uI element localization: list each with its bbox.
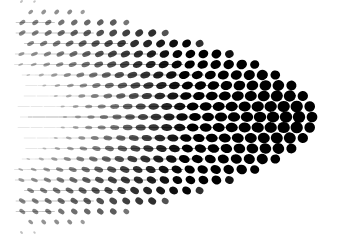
halftone-dot-pattern [0,0,353,244]
